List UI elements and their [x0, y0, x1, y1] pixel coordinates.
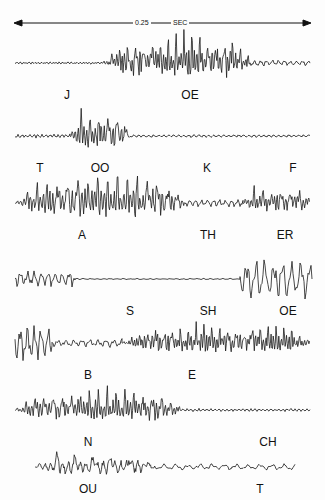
phoneme-label: B	[84, 369, 92, 381]
scale-value: 0.25	[133, 19, 151, 27]
phoneme-label: OO	[91, 162, 110, 174]
arrow-right-icon	[303, 20, 311, 26]
waveform-traces	[15, 30, 312, 475]
waveform-row5	[15, 322, 310, 361]
phoneme-label: TH	[200, 229, 216, 241]
speech-waveform-figure: 0.25 SEC JOETOOKFATHERSSHOEBENCHOUT	[0, 0, 325, 500]
waveform-row7	[35, 452, 295, 475]
phoneme-label: OE	[181, 89, 198, 101]
phoneme-label: T	[256, 483, 263, 495]
phoneme-label: CH	[259, 436, 276, 448]
scale-bar	[14, 20, 311, 26]
waveform-row4	[15, 260, 312, 299]
phoneme-label: T	[36, 162, 43, 174]
phoneme-label: S	[126, 305, 134, 317]
waveform-row3	[15, 176, 310, 217]
waveform-row1	[15, 30, 310, 78]
phoneme-label: OU	[79, 483, 97, 495]
waveform-canvas	[0, 0, 325, 500]
waveform-row2	[15, 108, 310, 147]
phoneme-label: SH	[200, 305, 217, 317]
arrow-left-icon	[14, 20, 22, 26]
waveform-row6	[15, 386, 310, 421]
phoneme-label: F	[289, 162, 296, 174]
phoneme-label: N	[84, 436, 93, 448]
phoneme-label: A	[78, 229, 86, 241]
phoneme-label: K	[203, 162, 211, 174]
phoneme-label: ER	[277, 229, 294, 241]
scale-unit: SEC	[171, 19, 189, 27]
phoneme-label: OE	[279, 305, 296, 317]
phoneme-label: J	[64, 89, 70, 101]
phoneme-label: E	[188, 369, 196, 381]
